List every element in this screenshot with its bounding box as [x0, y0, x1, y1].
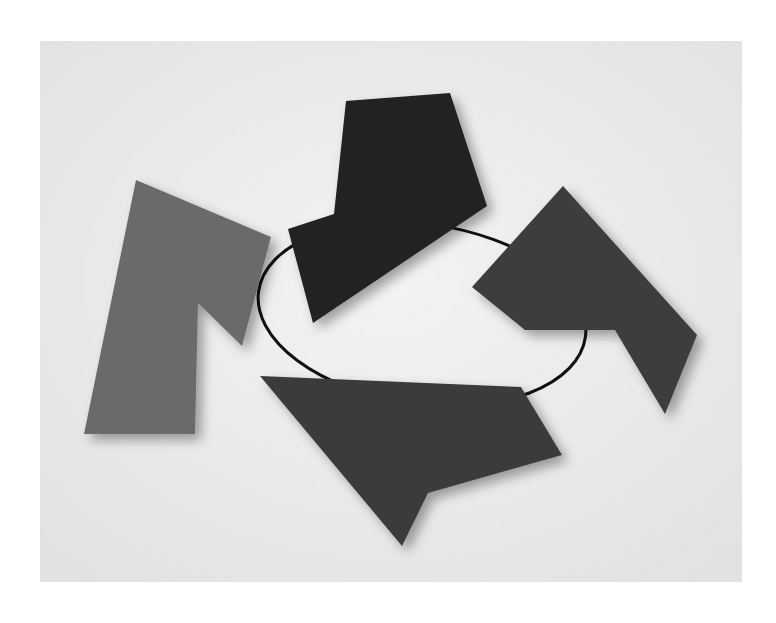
sculpture-photo [40, 41, 742, 582]
sculpture-svg [40, 41, 742, 582]
